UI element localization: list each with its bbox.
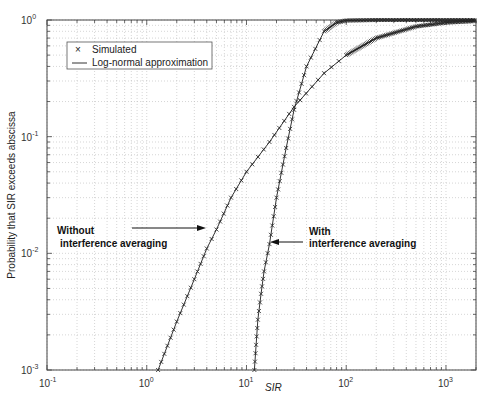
svg-text:interference averaging: interference averaging [60, 238, 167, 249]
legend-lognormal: Log-normal approximation [92, 57, 208, 68]
svg-text:101: 101 [238, 376, 253, 389]
svg-text:103: 103 [438, 376, 453, 389]
svg-text:10-3: 10-3 [21, 363, 38, 376]
svg-text:100: 100 [21, 13, 36, 26]
svg-text:10-1: 10-1 [21, 130, 38, 143]
legend-simulated: Simulated [92, 44, 136, 55]
annotation-with: With interference averaging [270, 226, 416, 249]
arrow-right-icon [197, 225, 206, 231]
plot-frame [47, 20, 476, 370]
svg-text:Without: Without [57, 225, 95, 236]
y-axis-label: Probability that SIR exceeds abscissa [6, 111, 17, 279]
simulated-marker-icon: × [75, 44, 81, 55]
svg-text:interference averaging: interference averaging [309, 238, 416, 249]
svg-text:10-2: 10-2 [21, 246, 38, 259]
arrow-left-icon [270, 239, 279, 245]
svg-text:10-1: 10-1 [39, 376, 56, 389]
svg-text:With: With [309, 226, 331, 237]
svg-text:102: 102 [338, 376, 353, 389]
x-axis-label: SIR [265, 382, 282, 393]
ccdf-chart: 10-110010110210310-310-210-1100 × Simula… [0, 0, 494, 407]
axis-ticks: 10-110010110210310-310-210-1100 [21, 13, 476, 389]
grid-lines [47, 20, 476, 370]
svg-text:100: 100 [139, 376, 154, 389]
legend: × Simulated Log-normal approximation [67, 42, 212, 69]
